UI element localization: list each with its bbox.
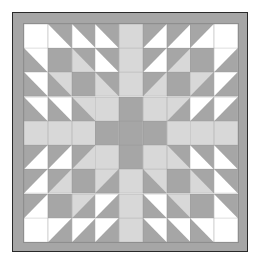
quilt-patch xyxy=(95,194,119,218)
quilt-patch xyxy=(143,145,167,169)
quilt-patch xyxy=(72,72,96,96)
quilt-grid xyxy=(24,24,238,242)
quilt-patch xyxy=(95,145,119,169)
quilt-patch xyxy=(143,97,167,121)
quilt-patch xyxy=(24,24,48,48)
quilt-patch xyxy=(95,169,119,193)
quilt-patch xyxy=(167,72,191,96)
quilt-patch xyxy=(190,169,214,193)
quilt-patch xyxy=(24,145,48,169)
quilt-patch xyxy=(95,48,119,72)
quilt-patch xyxy=(190,24,214,48)
quilt-patch xyxy=(95,24,119,48)
quilt-patch xyxy=(48,145,72,169)
quilt-patch xyxy=(48,24,72,48)
quilt-patch xyxy=(72,145,96,169)
quilt-patch xyxy=(24,97,48,121)
quilt-patch xyxy=(190,218,214,242)
quilt-patch xyxy=(72,48,96,72)
quilt-patch xyxy=(95,72,119,96)
quilt-patch xyxy=(214,72,238,96)
quilt-patch xyxy=(24,218,48,242)
quilt-patch xyxy=(24,121,48,145)
quilt-patch xyxy=(48,169,72,193)
quilt-patch xyxy=(143,218,167,242)
quilt-patch xyxy=(214,194,238,218)
quilt-patch xyxy=(167,218,191,242)
quilt-patch xyxy=(72,24,96,48)
quilt-patch xyxy=(167,97,191,121)
quilt-patch xyxy=(214,218,238,242)
quilt-patch xyxy=(48,218,72,242)
quilt-patch xyxy=(214,24,238,48)
quilt-patch xyxy=(119,218,143,242)
quilt-patch xyxy=(24,194,48,218)
quilt-patch xyxy=(190,48,214,72)
quilt-patch xyxy=(190,145,214,169)
quilt-patch xyxy=(119,169,143,193)
quilt-patch xyxy=(72,169,96,193)
quilt-patch xyxy=(119,24,143,48)
quilt-patch xyxy=(167,48,191,72)
quilt-patch xyxy=(167,169,191,193)
quilt-patch xyxy=(48,121,72,145)
quilt-patch xyxy=(95,97,119,121)
quilt-patch xyxy=(119,121,143,145)
quilt-patch xyxy=(143,194,167,218)
quilt-patch xyxy=(24,72,48,96)
quilt-patch xyxy=(167,194,191,218)
quilt-patch xyxy=(190,121,214,145)
quilt-patch xyxy=(72,97,96,121)
quilt-patch xyxy=(214,145,238,169)
quilt-patch xyxy=(143,72,167,96)
image-canvas xyxy=(0,0,259,264)
quilt-patch xyxy=(48,72,72,96)
quilt-patch xyxy=(24,169,48,193)
quilt-patch xyxy=(72,218,96,242)
quilt-patch xyxy=(72,121,96,145)
quilt-patch xyxy=(143,169,167,193)
quilt-patch xyxy=(190,194,214,218)
quilt-patch xyxy=(214,121,238,145)
quilt-patch xyxy=(119,97,143,121)
quilt-patch xyxy=(95,121,119,145)
quilt-patch xyxy=(167,24,191,48)
quilt-patch xyxy=(214,97,238,121)
quilt-border-frame xyxy=(12,12,248,252)
quilt-patch xyxy=(48,48,72,72)
quilt-patch xyxy=(214,169,238,193)
quilt-patch xyxy=(95,218,119,242)
quilt-patch xyxy=(48,97,72,121)
quilt-patch xyxy=(72,194,96,218)
quilt-patch xyxy=(48,194,72,218)
quilt-patch xyxy=(167,145,191,169)
quilt-patch xyxy=(24,48,48,72)
quilt-patch xyxy=(119,145,143,169)
quilt-patch xyxy=(190,97,214,121)
quilt-patch xyxy=(143,24,167,48)
quilt-patch xyxy=(119,72,143,96)
quilt-patch xyxy=(143,121,167,145)
quilt-patch xyxy=(143,48,167,72)
quilt-patch xyxy=(119,48,143,72)
quilt-patch xyxy=(119,194,143,218)
quilt-patch xyxy=(214,48,238,72)
quilt-patch xyxy=(167,121,191,145)
quilt-patch xyxy=(190,72,214,96)
